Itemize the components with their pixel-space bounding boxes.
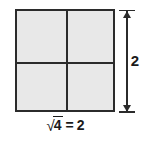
dimension-label: 2 [127,52,143,70]
radicand-value: 4 [53,116,63,133]
result-value: 2 [77,117,85,133]
square-root-figure: 2 √4=2 [0,0,144,142]
horizontal-divider-line [17,62,113,64]
equals-sign: = [66,117,74,133]
unit-square-area-model [15,9,115,112]
radical-expression: √4 [45,116,62,134]
arrowhead-up-icon [123,11,131,18]
equation-caption: √4=2 [0,116,130,134]
arrowhead-down-icon [123,105,131,112]
vertical-divider-line [66,11,68,110]
